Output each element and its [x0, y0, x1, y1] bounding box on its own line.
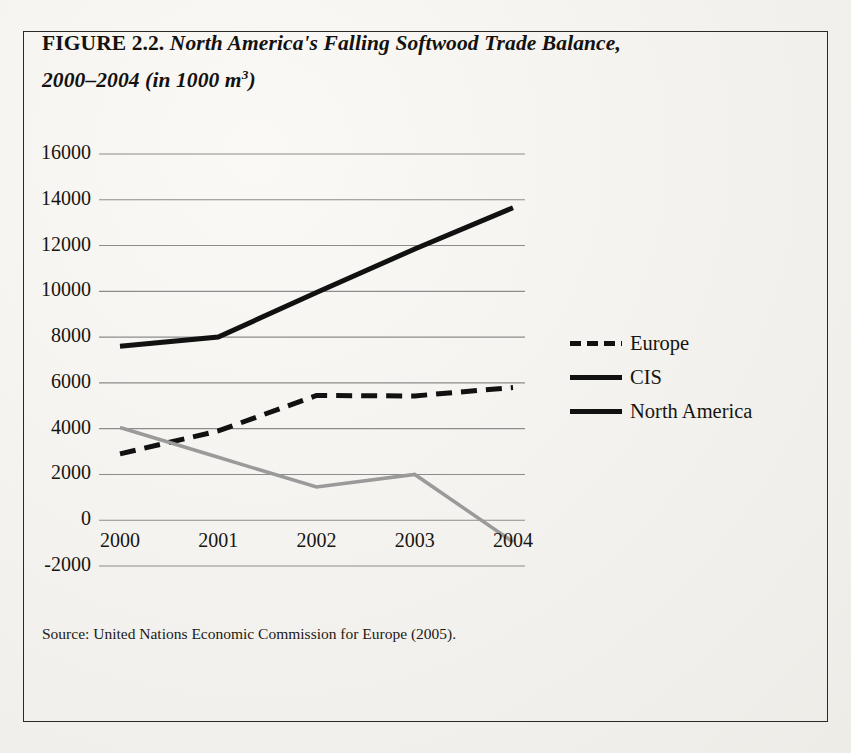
- y-tick-label: 2000: [0, 461, 91, 484]
- legend-item-north-america[interactable]: North America: [570, 394, 805, 428]
- legend-swatch-solid-icon: [570, 404, 622, 418]
- y-tick-label: 14000: [0, 187, 91, 210]
- chart-legend: EuropeCISNorth America: [570, 326, 805, 428]
- legend-label: Europe: [630, 332, 689, 355]
- legend-swatch-dashed-icon: [570, 336, 622, 350]
- series-line-north-america: [120, 428, 513, 542]
- source-note: Source: United Nations Economic Commissi…: [42, 625, 456, 643]
- legend-item-cis[interactable]: CIS: [570, 360, 805, 394]
- y-tick-label: 16000: [0, 141, 91, 164]
- chart-area: 1600014000120001000080006000400020000-20…: [0, 0, 805, 691]
- x-tick-label: 2003: [379, 529, 451, 552]
- x-tick-label: 2001: [182, 529, 254, 552]
- y-tick-label: 4000: [0, 416, 91, 439]
- x-tick-label: 2000: [84, 529, 156, 552]
- legend-label: North America: [630, 400, 752, 423]
- y-tick-label: 10000: [0, 278, 91, 301]
- y-tick-label: -2000: [0, 553, 91, 576]
- x-tick-label: 2002: [281, 529, 353, 552]
- y-tick-label: 8000: [0, 324, 91, 347]
- y-tick-label: 0: [0, 507, 91, 530]
- x-tick-label: 2004: [477, 529, 549, 552]
- legend-label: CIS: [630, 366, 662, 389]
- y-tick-label: 12000: [0, 233, 91, 256]
- series-line-cis: [120, 208, 513, 346]
- legend-item-europe[interactable]: Europe: [570, 326, 805, 360]
- legend-swatch-solid-icon: [570, 370, 622, 384]
- y-tick-label: 6000: [0, 370, 91, 393]
